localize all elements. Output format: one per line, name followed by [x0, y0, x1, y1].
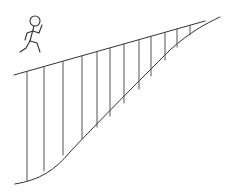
ramp-diagram: [0, 0, 234, 195]
lower-curve: [15, 17, 220, 184]
diagram-canvas: [0, 0, 234, 195]
running-stick-figure-icon: [20, 16, 42, 52]
